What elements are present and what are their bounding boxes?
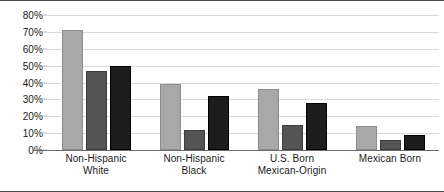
x-axis-label: Non-Hispanic White	[47, 153, 145, 176]
bar-group-bars	[341, 15, 439, 150]
y-tick-label-10pct: 10%	[23, 128, 43, 139]
bar[interactable]	[356, 126, 377, 150]
y-tick-label-80pct: 80%	[23, 10, 43, 21]
bar-group	[145, 15, 243, 150]
bar-group	[243, 15, 341, 150]
bar-group	[47, 15, 145, 150]
bar-group	[341, 15, 439, 150]
y-tick-label-60pct: 60%	[23, 43, 43, 54]
bar-chart-figure: 0%10%20%30%40%50%60%70%80% Non-Hispanic …	[0, 0, 444, 192]
bar[interactable]	[404, 135, 425, 150]
x-axis-label: Mexican Born	[341, 153, 439, 165]
figure-top-rule	[0, 0, 444, 1]
y-tick-label-30pct: 30%	[23, 94, 43, 105]
bar[interactable]	[282, 125, 303, 150]
bar[interactable]	[306, 103, 327, 150]
bar[interactable]	[380, 140, 401, 150]
bar-group-bars	[145, 15, 243, 150]
y-tick-label-40pct: 40%	[23, 77, 43, 88]
y-tick-label-20pct: 20%	[23, 111, 43, 122]
bar[interactable]	[184, 130, 205, 150]
bar-group-bars	[47, 15, 145, 150]
bar[interactable]	[86, 71, 107, 150]
figure-bottom-rule	[0, 191, 444, 192]
bar[interactable]	[208, 96, 229, 150]
x-axis-label: U.S. Born Mexican-Origin	[243, 153, 341, 176]
bar[interactable]	[62, 30, 83, 150]
y-tick-label-70pct: 70%	[23, 26, 43, 37]
bar-group-bars	[243, 15, 341, 150]
bar[interactable]	[258, 89, 279, 150]
y-tick-label-50pct: 50%	[23, 60, 43, 71]
x-axis-label: Non-Hispanic Black	[145, 153, 243, 176]
x-axis-line	[33, 150, 439, 151]
bar[interactable]	[110, 66, 131, 150]
plot-area: 0%10%20%30%40%50%60%70%80%	[47, 15, 439, 150]
bar[interactable]	[160, 84, 181, 150]
